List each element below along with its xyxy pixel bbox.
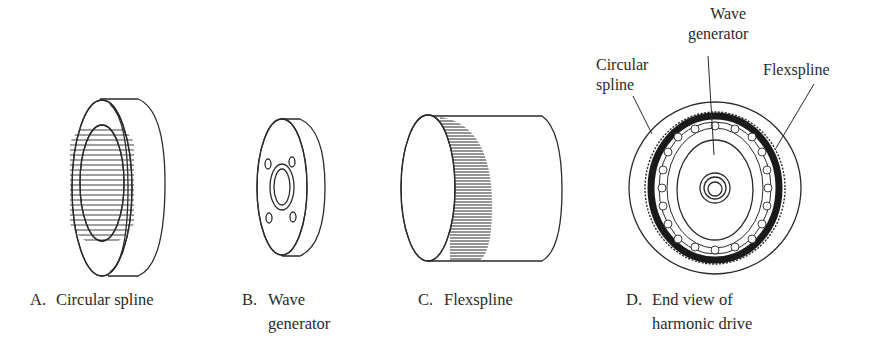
circular-spline-callout: Circular spline [596,55,648,95]
caption-d: D.End view of harmonic drive [626,288,752,336]
circular-spline-callout-line2: spline [596,75,648,95]
flexspline-drawing [401,115,562,261]
circular-spline-callout-line1: Circular [596,55,648,75]
caption-a: A.Circular spline [30,288,154,312]
flexspline-leader [776,84,814,148]
wave-generator-callout: Wave generator [688,4,748,44]
caption-b-text-line2: generator [242,312,330,336]
flexspline-callout: Flexspline [763,60,830,80]
harmonic-drive-end-view-drawing [629,56,814,274]
caption-b: B.Wave generator [242,288,330,336]
caption-d-letter: D. [626,288,652,312]
circular-spline-leader [633,96,652,134]
wave-generator-drawing [257,119,325,256]
flexspline-callout-text: Flexspline [763,60,830,80]
caption-b-letter: B. [242,288,268,312]
caption-c-text: Flexspline [444,290,513,309]
circular-spline-drawing [70,99,165,276]
wave-generator-callout-line1: Wave [688,4,748,24]
caption-c-letter: C. [418,288,444,312]
caption-d-text-line2: harmonic drive [626,312,752,336]
caption-b-text-line1: Wave [268,290,305,309]
caption-d-text-line1: End view of [652,290,733,309]
caption-a-text: Circular spline [56,290,154,309]
wave-generator-callout-line2: generator [688,24,748,44]
caption-c: C.Flexspline [418,288,513,312]
caption-a-letter: A. [30,288,56,312]
